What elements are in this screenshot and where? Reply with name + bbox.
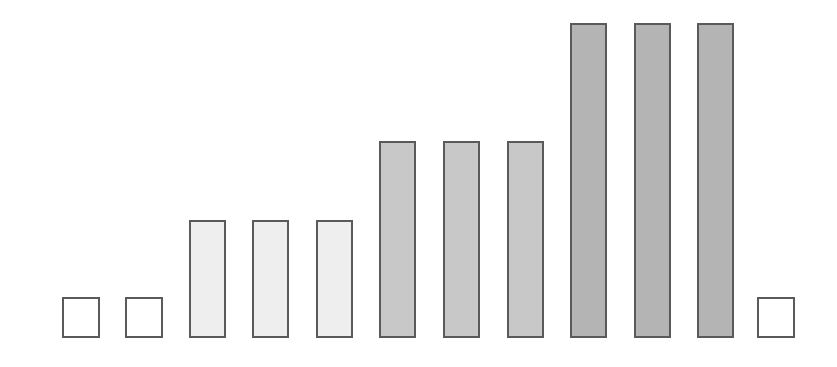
bar-1: [62, 297, 100, 338]
bar-7: [443, 141, 480, 338]
bar-8: [507, 141, 544, 338]
bar-3: [189, 220, 226, 338]
bar-11: [697, 23, 734, 338]
bar-9: [570, 23, 607, 338]
bar-5: [316, 220, 353, 338]
bar-2: [125, 297, 163, 338]
bar-6: [379, 141, 416, 338]
bar-4: [252, 220, 289, 338]
bar-chart: [0, 0, 837, 367]
bar-12: [757, 297, 795, 338]
bar-10: [634, 23, 671, 338]
